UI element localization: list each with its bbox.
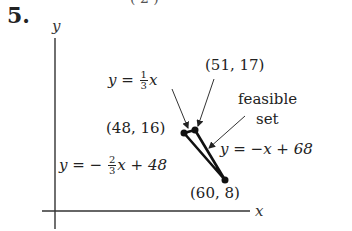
line-label-rhs: x + 48: [117, 156, 167, 174]
vertex-48-16: [181, 130, 188, 137]
line-label-lhs: y =: [108, 71, 134, 89]
line-label-rhs: x: [149, 71, 157, 89]
feasible-region-diagram: y x: [0, 0, 352, 231]
line-label-neg-x-68: y = −x + 68: [220, 142, 313, 157]
vertex-label-48-16: (48, 16): [106, 121, 165, 136]
line-label-one-third-x: y = 13x: [108, 70, 157, 91]
x-axis-label: x: [255, 202, 264, 220]
y-axis-label: y: [51, 17, 61, 35]
feasible-set-label-line2: set: [256, 112, 279, 127]
arrow-point-51-17: [198, 79, 214, 126]
fraction: 23: [108, 155, 116, 176]
vertex-60-8: [222, 177, 229, 184]
fraction: 13: [140, 70, 148, 91]
vertex-label-60-8: (60, 8): [190, 186, 240, 201]
feasible-set-triangle: [184, 130, 225, 180]
feasible-set-label-line1: feasible: [238, 92, 297, 107]
arrow-line-one-third: [172, 89, 188, 128]
line-label-neg-two-thirds-x-48: y = − 23x + 48: [59, 155, 167, 176]
vertex-label-51-17: (51, 17): [205, 58, 264, 73]
line-label-lhs: y = −: [59, 156, 102, 174]
vertex-51-17: [192, 127, 199, 134]
